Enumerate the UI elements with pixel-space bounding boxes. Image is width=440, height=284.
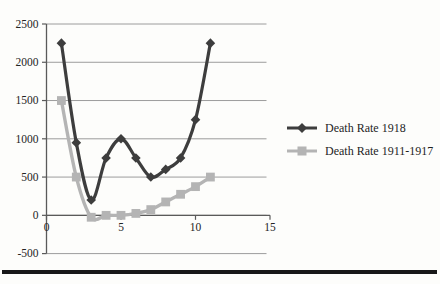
figure-page: -50005001000150020002500051015 Death Rat… [0,0,440,284]
y-tick-label: 2500 [16,18,39,30]
page-divider-rule [2,270,437,274]
marker-diamond-death-rate-1918 [206,38,216,48]
legend-swatch-square-icon [286,144,318,158]
marker-square-death-rate-1911-1917 [132,209,141,218]
marker-square-death-rate-1911-1917 [161,198,170,207]
series-layer [57,38,216,221]
legend-item-death-rate-1911-1917: Death Rate 1911-1917 [286,141,433,161]
marker-diamond-death-rate-1918 [57,38,67,48]
y-tick-label: 1000 [16,133,39,145]
legend-item-death-rate-1918: Death Rate 1918 [286,118,433,138]
marker-square-death-rate-1911-1917 [72,173,81,182]
marker-square-death-rate-1911-1917 [57,96,66,105]
marker-square-death-rate-1911-1917 [102,211,111,220]
marker-square-death-rate-1911-1917 [176,190,185,199]
x-tick-label: 10 [190,221,202,233]
marker-diamond-death-rate-1918 [191,115,201,125]
marker-square-death-rate-1911-1917 [87,213,96,222]
y-tick-label: 2000 [16,56,39,68]
legend-label: Death Rate 1911-1917 [325,144,433,159]
marker-square-death-rate-1911-1917 [206,173,215,182]
y-tick-label: 500 [21,171,39,183]
y-tick-label: 1500 [16,94,39,106]
marker-square-death-rate-1911-1917 [191,182,200,191]
y-tick-label: -500 [17,247,38,259]
x-tick-label: 15 [264,221,276,233]
y-tick-label: 0 [33,209,39,221]
legend-label: Death Rate 1918 [325,121,406,136]
marker-square-death-rate-1911-1917 [146,205,155,214]
gridlines-layer [47,24,267,254]
x-tick-label: 0 [44,221,50,233]
marker-square-death-rate-1911-1917 [117,211,126,220]
chart-legend: Death Rate 1918 Death Rate 1911-1917 [286,118,433,161]
legend-swatch-diamond-icon [286,121,318,135]
x-tick-label: 5 [118,221,124,233]
